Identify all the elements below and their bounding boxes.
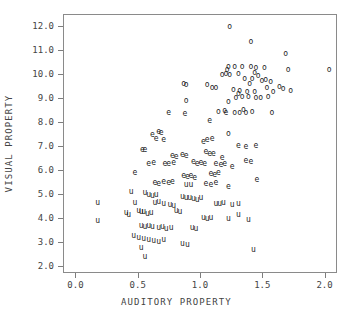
data-point-e: e: [216, 169, 221, 177]
data-point-o: o: [246, 93, 251, 101]
y-axis-tick-label: 7.0: [38, 141, 54, 150]
y-axis-tick-label: 6.0: [38, 165, 54, 174]
data-point-o: o: [270, 109, 275, 117]
data-point-e: e: [170, 178, 175, 186]
data-point-o: o: [271, 88, 276, 96]
plot-area: oooooooooooooooooooooooooooooooooooooooo…: [63, 14, 337, 273]
data-point-e: e: [248, 158, 253, 166]
data-point-u: u: [251, 246, 256, 254]
data-point-e: e: [220, 154, 225, 162]
y-axis-tick-label: 2.0: [38, 261, 54, 270]
x-axis-tick-label: 0.0: [67, 281, 83, 290]
data-point-e: e: [226, 183, 231, 191]
data-point-u: u: [230, 201, 235, 209]
data-point-u: u: [161, 236, 166, 244]
data-point-e: e: [211, 150, 216, 158]
x-axis-tick-label: 1.5: [254, 281, 270, 290]
data-point-o: o: [227, 23, 232, 31]
scatter-plot-figure: VISUAL PROPERTY 2.03.04.05.06.07.08.09.0…: [0, 0, 353, 322]
x-axis-tick: [138, 273, 139, 278]
data-point-u: u: [226, 215, 231, 223]
data-point-o: o: [265, 84, 270, 92]
data-point-u: u: [189, 181, 194, 189]
data-point-u: u: [95, 217, 100, 225]
data-point-o: o: [184, 97, 189, 105]
data-point-o: o: [262, 64, 267, 72]
data-point-u: u: [154, 191, 159, 199]
x-axis-tick: [200, 273, 201, 278]
y-axis-tick-label: 3.0: [38, 237, 54, 246]
data-point-u: u: [185, 241, 190, 249]
data-point-e: e: [166, 109, 171, 117]
data-point-e: e: [184, 152, 189, 160]
y-axis-tick-label: 12.0: [32, 21, 54, 30]
data-point-u: u: [169, 224, 174, 232]
data-point-u: u: [129, 188, 134, 196]
data-point-u: u: [143, 253, 148, 261]
data-point-u: u: [171, 202, 176, 210]
data-point-u: u: [149, 209, 154, 217]
x-axis-tick: [325, 273, 326, 278]
data-point-o: o: [288, 87, 293, 95]
data-point-o: o: [286, 66, 291, 74]
data-point-o: o: [327, 66, 332, 74]
x-axis-tick-label: 1.0: [192, 281, 208, 290]
data-point-o: o: [205, 81, 210, 89]
data-point-e: e: [154, 135, 159, 143]
data-point-u: u: [161, 200, 166, 208]
data-point-o: o: [281, 85, 286, 93]
data-point-e: e: [182, 110, 187, 118]
y-axis-tick-label: 5.0: [38, 189, 54, 198]
y-axis-tick-label: 9.0: [38, 93, 54, 102]
data-point-e: e: [161, 136, 166, 144]
data-point-e: e: [133, 169, 138, 177]
data-point-o: o: [266, 93, 271, 101]
data-point-e: e: [255, 176, 260, 184]
x-axis-tick-label: 0.5: [130, 281, 146, 290]
y-axis-title: VISUAL PROPERTY: [2, 14, 16, 273]
data-point-o: o: [226, 130, 231, 138]
data-point-e: e: [214, 179, 219, 187]
data-point-u: u: [209, 214, 214, 222]
data-point-o: o: [216, 108, 221, 116]
data-point-u: u: [194, 225, 199, 233]
data-point-e: e: [230, 163, 235, 171]
data-point-o: o: [226, 98, 231, 106]
data-point-o: o: [236, 70, 241, 78]
data-point-e: e: [253, 142, 258, 150]
x-axis-title: AUDITORY PROPERTY: [0, 297, 353, 307]
x-axis-tick: [75, 273, 76, 278]
data-point-e: e: [236, 142, 241, 150]
data-point-e: e: [210, 135, 215, 143]
data-point-o: o: [241, 106, 246, 114]
data-point-o: o: [283, 50, 288, 58]
data-point-o: o: [184, 81, 189, 89]
x-axis-tick: [262, 273, 263, 278]
data-point-o: o: [223, 70, 228, 78]
y-axis-tick-label: 10.0: [32, 69, 54, 78]
data-point-u: u: [177, 208, 182, 216]
x-axis-tick-label: 2.0: [316, 281, 332, 290]
data-point-o: o: [236, 90, 241, 98]
data-point-e: e: [243, 143, 248, 151]
data-point-o: o: [248, 38, 253, 46]
data-point-o: o: [252, 69, 257, 77]
data-point-e: e: [223, 109, 228, 117]
data-point-e: e: [151, 159, 156, 167]
y-axis-tick-label: 8.0: [38, 117, 54, 126]
data-points-layer: oooooooooooooooooooooooooooooooooooooooo…: [64, 15, 336, 272]
y-axis-tick-label: 4.0: [38, 213, 54, 222]
data-point-u: u: [236, 200, 241, 208]
data-point-u: u: [150, 223, 155, 231]
data-point-e: e: [143, 146, 148, 154]
data-point-u: u: [246, 216, 251, 224]
data-point-o: o: [250, 108, 255, 116]
data-point-e: e: [171, 159, 176, 167]
y-axis-tick-label: 11.0: [32, 45, 54, 54]
data-point-u: u: [236, 211, 241, 219]
data-point-u: u: [221, 199, 226, 207]
data-point-o: o: [214, 84, 219, 92]
data-point-o: o: [247, 80, 252, 88]
data-point-u: u: [95, 199, 100, 207]
data-point-e: e: [207, 117, 212, 125]
